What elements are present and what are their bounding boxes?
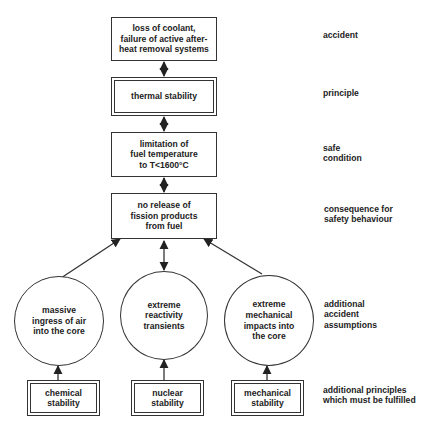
assumption-reactivity-circle: extreme reactivity transients (120, 271, 208, 360)
arrow-air-consequence (61, 239, 120, 278)
assumption-mechanical-circle: extreme mechanical impacts into the core (224, 275, 314, 366)
row-label-safe-condition: safe condition (323, 143, 362, 164)
consequence-text: no release of fission products from fuel (131, 200, 198, 231)
principle-text: thermal stability (131, 91, 197, 101)
mechanical-stability-box: mechanical stability (231, 380, 304, 416)
row-label-principles: additional principles which must be fulf… (323, 385, 416, 406)
mechanical-stability-text: mechanical stability (244, 388, 291, 409)
assumption-air-text: massive ingress of air into the core (32, 305, 86, 337)
row-label-principle: principle (323, 88, 359, 98)
accident-box: loss of coolant, failure of active after… (111, 17, 217, 61)
safe-condition-text: limitation of fuel temperature to T<1600… (130, 139, 197, 170)
row-label-assumptions: additional accident assumptions (324, 299, 377, 330)
chemical-stability-box: chemical stability (27, 380, 100, 416)
arrow-mechanical-consequence (204, 239, 262, 274)
principle-box: thermal stability (111, 77, 217, 116)
consequence-box: no release of fission products from fuel (111, 193, 217, 239)
nuclear-stability-text: nuclear stability (151, 388, 183, 409)
assumption-air-circle: massive ingress of air into the core (14, 276, 104, 366)
safe-condition-box: limitation of fuel temperature to T<1600… (111, 132, 217, 177)
row-label-accident: accident (323, 30, 358, 40)
row-label-consequence: consequence for safety behaviour (324, 204, 393, 225)
accident-text: loss of coolant, failure of active after… (119, 23, 209, 54)
nuclear-stability-box: nuclear stability (131, 380, 204, 416)
assumption-mechanical-text: extreme mechanical impacts into the core (244, 299, 295, 341)
chemical-stability-text: chemical stability (45, 388, 82, 409)
assumption-reactivity-text: extreme reactivity transients (143, 300, 184, 332)
